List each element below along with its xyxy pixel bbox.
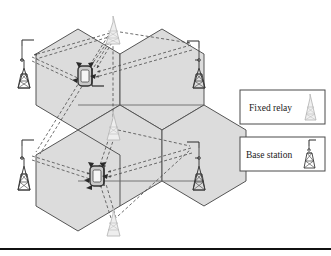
legend: Fixed relay Base station: [240, 90, 325, 171]
legend-label-fixed-relay: Fixed relay: [249, 103, 292, 113]
base-station-lower-left[interactable]: [18, 140, 34, 190]
legend-item-fixed-relay[interactable]: Fixed relay: [240, 90, 325, 124]
figure-container: Fixed relay Base station: [0, 0, 331, 256]
network-topology-figure: Fixed relay Base station: [0, 0, 331, 256]
base-station-upper-left[interactable]: [18, 40, 34, 88]
legend-label-base-station: Base station: [246, 150, 292, 160]
bottom-divider-rule: [0, 248, 331, 250]
legend-item-base-station[interactable]: Base station: [240, 137, 325, 171]
fixed-relay-top[interactable]: [106, 16, 120, 44]
